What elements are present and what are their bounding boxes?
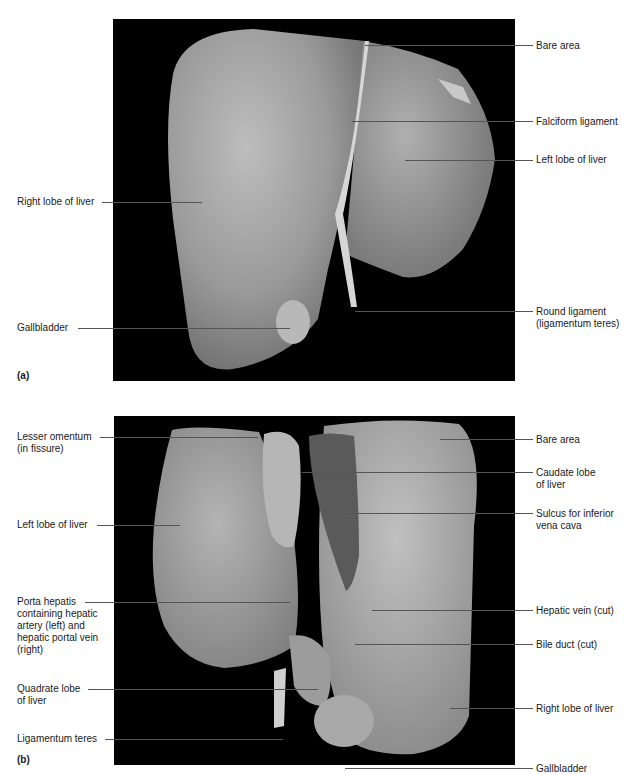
- label-b-bile-duct: Bile duct (cut): [536, 639, 597, 651]
- label-a-falciform-ligament: Falciform ligament: [536, 116, 618, 128]
- label-a-round-ligament: Round ligament (ligamentum teres): [536, 306, 619, 330]
- leader-a-right-lobe: [102, 202, 202, 203]
- panel-letter-a: (a): [17, 370, 29, 381]
- leader-b-ligamentum-teres: [105, 739, 283, 740]
- leader-b-lesser-omentum: [100, 437, 258, 438]
- label-b-bare-area: Bare area: [536, 434, 580, 446]
- photo-panel-a-anterior-liver: [113, 19, 515, 381]
- label-b-gallbladder: Gallbladder: [536, 763, 587, 775]
- leader-a-gallbladder: [78, 328, 290, 329]
- leader-b-gallbladder: [345, 768, 533, 769]
- label-b-sulcus-ivc: Sulcus for inferior vena cava: [536, 508, 614, 532]
- label-a-gallbladder: Gallbladder: [17, 322, 68, 334]
- label-a-bare-area: Bare area: [536, 40, 580, 52]
- panel-letter-b: (b): [17, 754, 30, 765]
- label-a-left-lobe-of-liver: Left lobe of liver: [536, 154, 607, 166]
- leader-b-porta-hepatis: [85, 602, 290, 603]
- leader-b-caudate-lobe: [302, 472, 533, 473]
- leader-b-right-lobe: [450, 708, 533, 709]
- leader-b-hepatic-vein: [372, 610, 533, 611]
- label-b-right-lobe-of-liver: Right lobe of liver: [536, 703, 613, 715]
- label-b-ligamentum-teres: Ligamentum teres: [17, 733, 97, 745]
- label-a-right-lobe-of-liver: Right lobe of liver: [17, 196, 94, 208]
- label-b-hepatic-vein: Hepatic vein (cut): [536, 605, 614, 617]
- liver-anterior-specimen: [113, 19, 515, 381]
- leader-a-round-ligament: [355, 311, 533, 312]
- label-b-caudate-lobe: Caudate lobe of liver: [536, 467, 596, 491]
- label-b-lesser-omentum: Lesser omentum (in fissure): [17, 431, 91, 455]
- leader-b-bile-duct: [355, 644, 533, 645]
- liver-posterior-specimen: [114, 416, 515, 765]
- label-b-quadrate-lobe: Quadrate lobe of liver: [17, 683, 80, 707]
- leader-b-sulcus-ivc: [345, 513, 533, 514]
- leader-a-bare-area: [365, 45, 533, 46]
- label-b-left-lobe-of-liver: Left lobe of liver: [17, 519, 88, 531]
- photo-panel-b-posterior-liver: [114, 416, 515, 765]
- leader-b-left-lobe: [97, 525, 180, 526]
- leader-a-falciform: [352, 121, 533, 122]
- leader-b-quadrate-lobe: [88, 689, 318, 690]
- leader-a-left-lobe: [405, 160, 533, 161]
- label-b-porta-hepatis: Porta hepatis containing hepatic artery …: [17, 596, 98, 656]
- leader-b-bare-area: [440, 439, 533, 440]
